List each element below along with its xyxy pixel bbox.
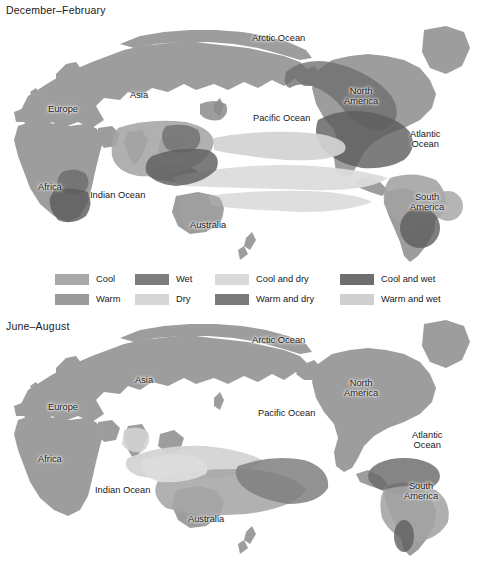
legend-label-cool: Cool xyxy=(96,273,115,285)
panel-title-december-february: December–February xyxy=(6,4,106,16)
climate-map-figure: December–February xyxy=(0,0,479,577)
map-panel-june-august: June–August xyxy=(0,318,479,577)
legend-label-wet: Wet xyxy=(176,273,192,285)
map-panel-december-february: December–February xyxy=(0,0,479,268)
legend-swatch-dry xyxy=(135,294,169,305)
legend-swatch-warm xyxy=(55,294,89,305)
panel-title-june-august: June–August xyxy=(6,320,70,332)
overlay-warm-southeast-brazil xyxy=(433,191,463,221)
map-legend: Cool Warm Wet Dry Cool and dry xyxy=(0,268,479,318)
legend-label-warm-and-wet: Warm and wet xyxy=(381,293,441,305)
legend-label-warm-and-dry: Warm and dry xyxy=(256,293,314,305)
world-map-december-february xyxy=(0,0,479,268)
overlay-cool-japan xyxy=(200,101,227,120)
overlay-wet-south-asia xyxy=(162,125,200,153)
legend-swatch-wet xyxy=(135,274,169,285)
overlay-cool-and-dry-india xyxy=(122,427,149,452)
legend-label-cool-and-dry: Cool and dry xyxy=(256,273,309,285)
legend-swatch-warm-and-wet xyxy=(340,294,374,305)
overlay-wet-south-america xyxy=(400,208,440,248)
world-map-june-august xyxy=(0,318,479,577)
overlay-cool-australia xyxy=(179,193,224,231)
legend-label-warm: Warm xyxy=(96,293,120,305)
legend-label-cool-and-wet: Cool and wet xyxy=(381,273,435,285)
legend-swatch-cool xyxy=(55,274,89,285)
legend-label-dry: Dry xyxy=(176,293,190,305)
overlay-wet-southern-chile xyxy=(394,520,414,552)
legend-swatch-warm-and-dry xyxy=(215,294,249,305)
legend-swatch-cool-and-wet xyxy=(340,274,374,285)
legend-swatch-cool-and-dry xyxy=(215,274,249,285)
